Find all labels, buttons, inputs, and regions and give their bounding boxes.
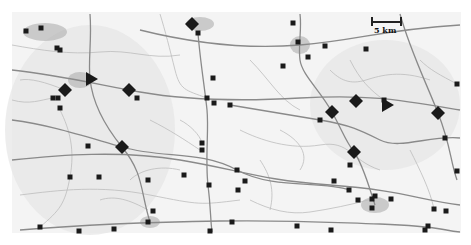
square-marker[interactable] <box>444 209 449 214</box>
square-marker[interactable] <box>146 178 151 183</box>
square-marker[interactable] <box>68 175 73 180</box>
square-marker[interactable] <box>196 31 201 36</box>
square-marker[interactable] <box>58 48 63 53</box>
square-marker[interactable] <box>332 179 337 184</box>
square-marker[interactable] <box>373 194 378 199</box>
square-marker[interactable] <box>348 163 353 168</box>
square-marker[interactable] <box>329 228 334 233</box>
square-marker[interactable] <box>364 47 369 52</box>
square-marker[interactable] <box>243 179 248 184</box>
square-marker[interactable] <box>235 168 240 173</box>
scale-bar-line <box>371 21 401 23</box>
square-marker[interactable] <box>323 44 328 49</box>
square-marker[interactable] <box>318 118 323 123</box>
square-marker[interactable] <box>97 175 102 180</box>
square-marker[interactable] <box>200 141 205 146</box>
square-marker[interactable] <box>423 228 428 233</box>
square-marker[interactable] <box>228 103 233 108</box>
square-marker[interactable] <box>56 96 61 101</box>
square-marker[interactable] <box>182 173 187 178</box>
square-marker[interactable] <box>230 220 235 225</box>
square-marker[interactable] <box>146 220 151 225</box>
square-marker[interactable] <box>211 76 216 81</box>
map-canvas[interactable] <box>0 0 471 245</box>
square-marker[interactable] <box>212 101 217 106</box>
scale-bar: 5 km <box>371 17 403 35</box>
scale-bar-tick-right <box>400 17 402 26</box>
square-marker[interactable] <box>236 188 241 193</box>
square-marker[interactable] <box>281 64 286 69</box>
square-marker[interactable] <box>205 96 210 101</box>
square-marker[interactable] <box>86 144 91 149</box>
square-marker[interactable] <box>39 26 44 31</box>
square-marker[interactable] <box>200 148 205 153</box>
square-marker[interactable] <box>443 136 448 141</box>
square-marker[interactable] <box>296 40 301 45</box>
square-marker[interactable] <box>370 206 375 211</box>
square-marker[interactable] <box>356 198 361 203</box>
square-marker[interactable] <box>58 106 63 111</box>
square-marker[interactable] <box>112 227 117 232</box>
square-marker[interactable] <box>207 183 212 188</box>
northwest-town <box>23 23 67 41</box>
square-marker[interactable] <box>432 207 437 212</box>
square-marker[interactable] <box>77 229 82 234</box>
square-marker[interactable] <box>51 96 56 101</box>
scale-bar-label: 5 km <box>374 25 396 35</box>
square-marker[interactable] <box>208 229 213 234</box>
square-marker[interactable] <box>295 224 300 229</box>
square-marker[interactable] <box>347 188 352 193</box>
square-marker[interactable] <box>291 21 296 26</box>
square-marker[interactable] <box>24 29 29 34</box>
square-marker[interactable] <box>306 55 311 60</box>
square-marker[interactable] <box>135 96 140 101</box>
square-marker[interactable] <box>38 225 43 230</box>
square-marker[interactable] <box>151 209 156 214</box>
square-marker[interactable] <box>389 197 394 202</box>
square-marker[interactable] <box>455 82 460 87</box>
square-marker[interactable] <box>455 169 460 174</box>
